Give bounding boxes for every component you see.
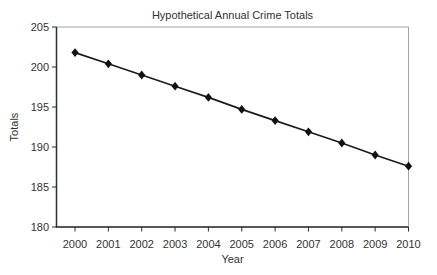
plot-area: 1801851901952002052000200120022003200420… (0, 0, 437, 275)
crime-totals-figure: Hypothetical Annual Crime Totals Totals … (0, 0, 437, 275)
data-point-marker (238, 105, 245, 114)
data-point-marker (272, 116, 279, 125)
y-tick-label: 195 (31, 101, 49, 113)
data-point-marker (71, 48, 78, 57)
x-tick-label: 2004 (196, 238, 220, 250)
data-point-marker (171, 82, 178, 91)
axes (57, 27, 409, 227)
x-tick-label: 2009 (363, 238, 387, 250)
data-point-marker (405, 162, 412, 171)
data-point-marker (105, 59, 112, 68)
y-tick-label: 190 (31, 141, 49, 153)
x-tick-label: 2005 (230, 238, 254, 250)
x-tick-label: 2000 (63, 238, 87, 250)
x-tick-label: 2010 (396, 238, 420, 250)
x-tick-label: 2008 (330, 238, 354, 250)
x-tick-label: 2001 (96, 238, 120, 250)
x-tick-label: 2002 (129, 238, 153, 250)
x-tick-label: 2007 (296, 238, 320, 250)
data-point-marker (138, 71, 145, 80)
y-tick-label: 185 (31, 181, 49, 193)
y-tick-label: 200 (31, 61, 49, 73)
data-point-marker (205, 93, 212, 102)
plot-border (57, 27, 409, 227)
data-point-marker (372, 151, 379, 160)
data-point-marker (305, 127, 312, 136)
x-tick-label: 2006 (263, 238, 287, 250)
y-tick-label: 180 (31, 221, 49, 233)
data-point-marker (338, 139, 345, 148)
y-tick-label: 205 (31, 21, 49, 33)
x-tick-label: 2003 (163, 238, 187, 250)
